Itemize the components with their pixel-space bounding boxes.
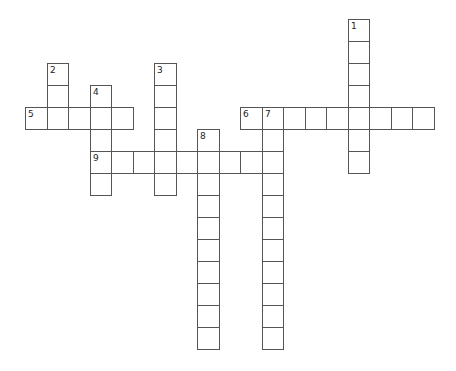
crossword-cell[interactable]: [197, 283, 220, 306]
crossword-cell[interactable]: [176, 151, 198, 174]
crossword-cell[interactable]: [348, 151, 370, 174]
crossword-cell[interactable]: [262, 217, 284, 240]
crossword-cell[interactable]: [154, 129, 177, 152]
crossword-cell[interactable]: [326, 107, 349, 130]
crossword-cell[interactable]: [197, 239, 220, 262]
crossword-cell[interactable]: [262, 305, 284, 328]
crossword-cell[interactable]: 5: [25, 107, 48, 130]
crossword-cell[interactable]: [283, 107, 306, 130]
crossword-cell[interactable]: 8: [197, 129, 220, 152]
clue-number: 3: [157, 65, 163, 75]
crossword-cell[interactable]: [262, 261, 284, 284]
clue-number: 2: [50, 65, 56, 75]
clue-number: 7: [265, 109, 271, 119]
crossword-cell[interactable]: [348, 129, 370, 152]
crossword-cell[interactable]: [262, 173, 284, 196]
crossword-cell[interactable]: [111, 107, 134, 130]
crossword-cell[interactable]: [133, 151, 155, 174]
crossword-cell[interactable]: [219, 151, 241, 174]
crossword-cell[interactable]: [154, 107, 177, 130]
crossword-cell[interactable]: [154, 85, 177, 108]
clue-number: 5: [28, 109, 34, 119]
crossword-cell[interactable]: [369, 107, 392, 130]
crossword-cell[interactable]: [90, 129, 112, 152]
crossword-cell[interactable]: [90, 107, 112, 130]
clue-number: 6: [243, 109, 249, 119]
crossword-cell[interactable]: [391, 107, 413, 130]
clue-number: 1: [351, 21, 357, 31]
crossword-cell[interactable]: 6: [240, 107, 263, 130]
crossword-grid: 123495678: [0, 0, 456, 371]
crossword-cell[interactable]: [197, 217, 220, 240]
crossword-cell[interactable]: 9: [90, 151, 112, 174]
clue-number: 8: [200, 131, 206, 141]
crossword-cell[interactable]: [47, 85, 69, 108]
crossword-cell[interactable]: [262, 129, 284, 152]
crossword-cell[interactable]: [262, 239, 284, 262]
crossword-cell[interactable]: [111, 151, 134, 174]
crossword-cell[interactable]: [154, 173, 177, 196]
crossword-cell[interactable]: [305, 107, 327, 130]
crossword-cell[interactable]: [262, 195, 284, 218]
crossword-cell[interactable]: [262, 283, 284, 306]
crossword-cell[interactable]: [197, 151, 220, 174]
crossword-cell[interactable]: [348, 41, 370, 64]
crossword-cell[interactable]: [154, 151, 177, 174]
crossword-cell[interactable]: [262, 151, 284, 174]
crossword-cell[interactable]: [348, 85, 370, 108]
crossword-cell[interactable]: [197, 173, 220, 196]
crossword-cell[interactable]: 3: [154, 63, 177, 86]
crossword-cell[interactable]: 7: [262, 107, 284, 130]
crossword-cell[interactable]: [348, 63, 370, 86]
crossword-cell[interactable]: [68, 107, 91, 130]
crossword-cell[interactable]: [197, 327, 220, 350]
crossword-cell[interactable]: [412, 107, 435, 130]
clue-number: 4: [93, 87, 99, 97]
crossword-cell[interactable]: [47, 107, 69, 130]
crossword-cell[interactable]: [197, 195, 220, 218]
crossword-cell[interactable]: 4: [90, 85, 112, 108]
crossword-cell[interactable]: [90, 173, 112, 196]
crossword-cell[interactable]: [240, 151, 263, 174]
clue-number: 9: [93, 153, 99, 163]
crossword-cell[interactable]: [262, 327, 284, 350]
crossword-cell[interactable]: 1: [348, 19, 370, 42]
crossword-cell[interactable]: [197, 305, 220, 328]
crossword-cell[interactable]: 2: [47, 63, 69, 86]
crossword-cell[interactable]: [348, 107, 370, 130]
crossword-cell[interactable]: [197, 261, 220, 284]
